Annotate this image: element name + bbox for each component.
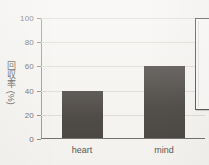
plot-area: 020406080100 heartmind xyxy=(41,18,205,139)
y-tick-mark xyxy=(37,91,41,92)
y-axis-line xyxy=(41,18,42,139)
bar-chart-figure: 回収率 (%) 020406080100 heartmind xyxy=(0,0,209,165)
x-axis-line xyxy=(41,138,205,139)
x-tick-label-heart: heart xyxy=(72,145,93,155)
gridline xyxy=(41,18,205,19)
y-tick-mark xyxy=(37,139,41,140)
y-tick-mark xyxy=(37,66,41,67)
y-tick-mark xyxy=(37,42,41,43)
x-tick-label-mind: mind xyxy=(154,145,174,155)
y-tick-mark xyxy=(37,18,41,19)
y-tick-mark xyxy=(37,115,41,116)
y-tick-label: 60 xyxy=(25,62,34,71)
y-tick-label: 0 xyxy=(29,135,34,144)
bar-mind xyxy=(144,66,185,138)
legend-box xyxy=(195,18,209,110)
y-tick-label: 80 xyxy=(25,38,34,47)
bar-heart xyxy=(62,91,103,138)
y-tick-label: 20 xyxy=(25,110,34,119)
y-tick-label: 40 xyxy=(25,86,34,95)
gridline xyxy=(41,42,205,43)
y-tick-label: 100 xyxy=(20,14,34,23)
legend-inner-panel xyxy=(198,21,209,107)
y-axis-title: 回収率 (%) xyxy=(6,61,15,105)
